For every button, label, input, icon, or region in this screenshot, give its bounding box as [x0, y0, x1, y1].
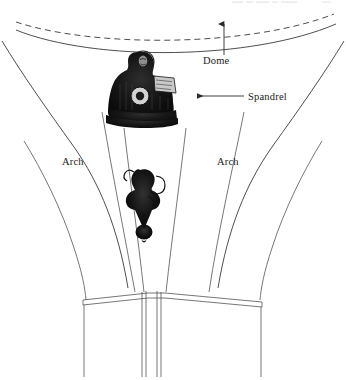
figure-roundel — [131, 87, 149, 105]
figure-face — [139, 56, 148, 67]
dome-arc-dashed — [16, 14, 334, 40]
pendentive-right-edge — [209, 112, 244, 292]
arch-right-label: Arch — [217, 156, 239, 167]
dome-label: Dome — [203, 55, 230, 66]
figure-book — [154, 76, 176, 93]
pendentive-inner-right — [166, 128, 186, 292]
arch-right-inner — [260, 141, 322, 300]
spandrel-label: Spandrel — [248, 91, 287, 102]
label-dome: Dome — [203, 24, 230, 66]
top-caption — [232, 1, 331, 3]
dome-arcs — [16, 14, 336, 53]
impost-line-upper — [83, 293, 262, 302]
architectural-diagram: Dome Spandrel Arch Arch — [0, 0, 346, 380]
evangelist-figure — [106, 51, 178, 128]
top-caption-artifact — [232, 1, 331, 3]
pier-center-shaft — [142, 291, 161, 377]
pendant-drop — [141, 239, 147, 243]
diagram-canvas: Dome Spandrel Arch Arch — [0, 0, 346, 380]
label-spandrel: Spandrel — [197, 91, 287, 102]
impost-molding — [83, 293, 262, 307]
dome-arc-solid — [16, 24, 336, 53]
arch-left-label: Arch — [62, 156, 84, 167]
piers — [84, 291, 261, 377]
